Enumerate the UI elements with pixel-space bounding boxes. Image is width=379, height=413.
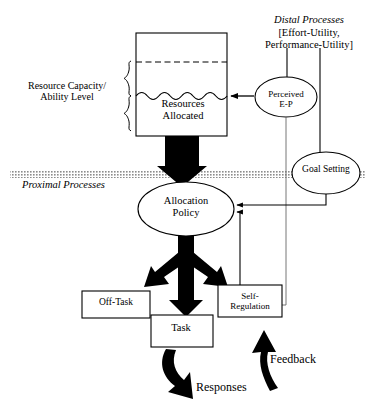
selfreg-to-allocation-connector [237, 212, 240, 285]
resource-capacity-label: Resource Capacity/ Ability Level [8, 80, 126, 102]
allocation-policy-label: Allocation Policy [144, 195, 228, 219]
goal-to-allocation-connector [237, 194, 326, 205]
responses-label: Responses [196, 381, 286, 394]
resources-allocated-label: Resources Allocated [141, 98, 225, 122]
distal-bracket-line-1: [Effort-Utility, [278, 27, 339, 38]
distal-bracket-line-2: Performance-Utility] [265, 39, 353, 50]
proximal-processes-label: Proximal Processes [22, 179, 152, 191]
responses-arrow [162, 349, 193, 399]
off-task-label: Off-Task [88, 297, 144, 308]
task-label: Task [157, 322, 205, 334]
distal-processes-bracket-label: [Effort-Utility,Performance-Utility] [239, 27, 379, 51]
diagram-canvas: Resource Capacity/ Ability Level Distal … [0, 0, 379, 413]
goal-setting-label: Goal Setting [288, 164, 364, 175]
perceived-ep-label: Perceived E-P [255, 89, 317, 109]
feedback-label: Feedback [270, 353, 350, 366]
distal-processes-label: Distal Processes [243, 14, 375, 26]
allocation-to-task-arrow [169, 236, 203, 317]
resources-to-allocation-arrow [157, 136, 207, 187]
perceived-to-selfreg-line [282, 117, 286, 305]
self-regulation-label: Self- Regulation [222, 291, 278, 311]
